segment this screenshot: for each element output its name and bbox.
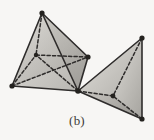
vertex-dot bbox=[9, 83, 14, 88]
vertex-dot bbox=[85, 54, 90, 59]
vertex-dot bbox=[39, 10, 44, 15]
vertex-dot bbox=[139, 35, 144, 40]
vertex-dot bbox=[75, 88, 81, 94]
figure-container: (b) bbox=[0, 0, 154, 140]
vertex-dot bbox=[111, 94, 116, 99]
vertex-dot bbox=[34, 53, 38, 57]
figure-caption: (b) bbox=[0, 113, 154, 129]
